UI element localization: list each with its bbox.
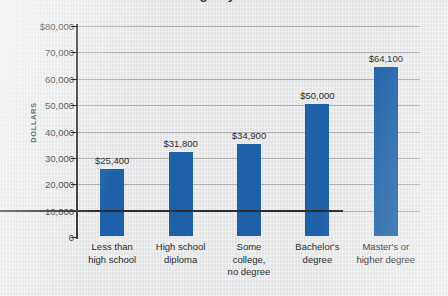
- bar: [305, 104, 329, 236]
- chart-title: Median annual earnings by educational at…: [0, 0, 448, 2]
- x-axis-label-line: no degree: [206, 266, 292, 279]
- y-axis-tick-mark: [71, 158, 77, 159]
- x-axis-category-labels: Less thanhigh schoolHigh schooldiplomaSo…: [78, 241, 420, 296]
- x-axis-category-label: Master's orhigher degree: [343, 241, 429, 266]
- y-axis-tick-label: 20,000: [2, 179, 74, 190]
- bar-value-label: $31,800: [163, 138, 197, 149]
- bar-value-label: $25,400: [95, 155, 129, 166]
- bar-chart-figure: Median annual earnings by educational at…: [0, 0, 448, 296]
- y-axis-tick-mark: [71, 184, 77, 185]
- y-axis-tick-label: 30,000: [2, 152, 74, 163]
- y-axis-tick-label: 50,000: [2, 100, 74, 111]
- bar: [100, 169, 124, 236]
- y-axis-tick-label: $80,000: [2, 21, 74, 32]
- y-axis-tick-mark: [71, 52, 77, 53]
- bar: [237, 144, 261, 236]
- y-axis-tick-mark: [71, 26, 77, 27]
- gridline: [78, 26, 420, 27]
- y-axis-tick-mark: [71, 237, 77, 238]
- bar: [374, 67, 398, 236]
- x-axis-label-line: Master's or: [343, 241, 429, 254]
- y-axis-tick-label: 60,000: [2, 73, 74, 84]
- plot-area: $25,400$31,800$34,900$50,000$64,100: [78, 26, 420, 237]
- y-axis-title: DOLLARS: [29, 102, 38, 142]
- x-axis-label-line: higher degree: [343, 254, 429, 267]
- y-axis-tick-mark: [71, 79, 77, 80]
- gridline: [78, 105, 420, 106]
- y-axis-tick-label: 40,000: [2, 126, 74, 137]
- y-axis-tick-label: 0: [2, 232, 74, 243]
- bar-value-label: $64,100: [369, 53, 403, 64]
- bar: [169, 152, 193, 236]
- y-axis-tick-mark: [71, 132, 77, 133]
- y-axis-tick-label: 70,000: [2, 47, 74, 58]
- bar-value-label: $34,900: [232, 130, 266, 141]
- bar-value-label: $50,000: [300, 90, 334, 101]
- y-axis-tick-mark: [71, 211, 77, 212]
- gridline: [78, 79, 420, 80]
- x-axis-baseline: [0, 210, 343, 212]
- y-axis-tick-mark: [71, 105, 77, 106]
